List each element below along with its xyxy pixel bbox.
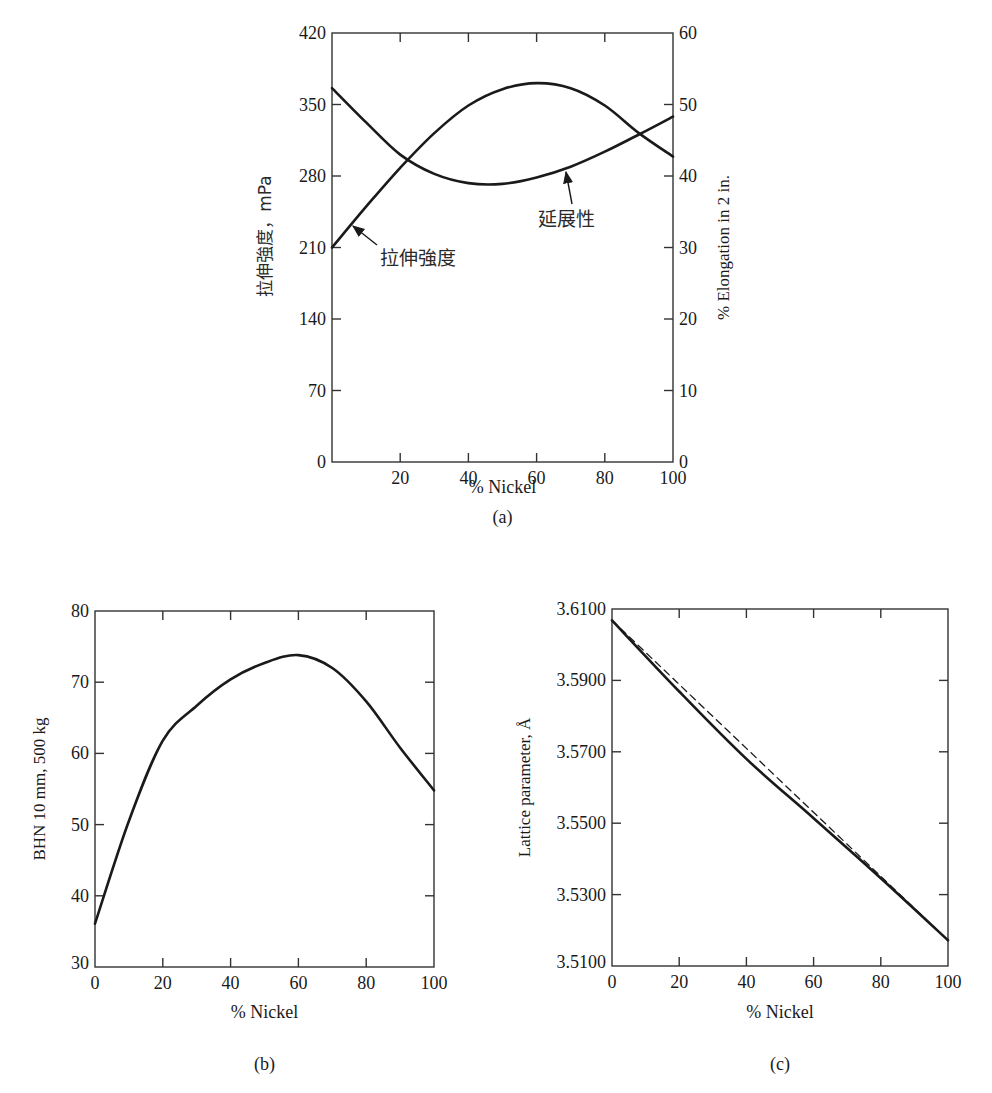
y-axis-right-title: % Elongation in 2 in. (714, 175, 733, 320)
y-tick-label: 3.6100 (557, 599, 607, 619)
x-tick-label: 60 (289, 973, 307, 993)
chart-panel-c: 0204060801003.51003.53003.55003.57003.59… (515, 599, 962, 1075)
y-tick-label: 3.5500 (557, 813, 607, 833)
series-line-- (332, 88, 673, 184)
y-tick-label: 3.5900 (557, 670, 607, 690)
y-tick-label: 140 (299, 309, 326, 329)
y-right-tick-label: 10 (679, 381, 697, 401)
x-axis-title: % Nickel (469, 477, 536, 497)
y-tick-label: 3.5100 (557, 952, 607, 972)
y-tick-label: 210 (299, 238, 326, 258)
y-right-tick-label: 60 (679, 23, 697, 43)
y-tick-label: 50 (71, 815, 89, 835)
y-right-tick-label: 20 (679, 309, 697, 329)
chart-panel-a: 2040608010007014021028035042001020304050… (255, 23, 733, 528)
x-tick-label: 20 (154, 973, 172, 993)
panel-caption: (a) (493, 507, 513, 528)
x-tick-label: 80 (357, 973, 375, 993)
y-tick-label: 0 (317, 452, 326, 472)
y-axis-title: 拉伸強度，mPa (255, 175, 275, 296)
y-tick-label: 30 (71, 953, 89, 973)
y-right-tick-label: 0 (679, 452, 688, 472)
y-tick-label: 350 (299, 95, 326, 115)
y-tick-label: 3.5300 (557, 885, 607, 905)
y-right-tick-label: 40 (679, 166, 697, 186)
y-tick-label: 40 (71, 886, 89, 906)
x-tick-label: 40 (737, 972, 755, 992)
x-axis-title: % Nickel (231, 1002, 298, 1022)
y-tick-label: 420 (299, 23, 326, 43)
series-line-bhn (95, 655, 434, 924)
y-right-tick-label: 50 (679, 95, 697, 115)
y-tick-label: 280 (299, 166, 326, 186)
x-tick-label: 80 (872, 972, 890, 992)
annotation-label-elongation: 延展性 (538, 208, 595, 230)
figure: 2040608010007014021028035042001020304050… (0, 0, 992, 1093)
x-tick-label: 40 (222, 973, 240, 993)
y-tick-label: 60 (71, 743, 89, 763)
series-line-- (332, 83, 673, 247)
figure-canvas: 2040608010007014021028035042001020304050… (0, 0, 992, 1093)
y-tick-label: 80 (71, 601, 89, 621)
chart-panel-b: 020406080100304050607080% NickelBHN 10 m… (30, 601, 448, 1075)
annotation-arrow-tensile (353, 226, 377, 245)
annotation-arrow-elongation (566, 172, 572, 204)
y-tick-label: 70 (71, 672, 89, 692)
x-tick-label: 100 (421, 973, 448, 993)
annotation-label-tensile: 拉伸強度 (380, 247, 456, 269)
y-tick-label: 70 (308, 381, 326, 401)
x-tick-label: 80 (596, 468, 614, 488)
x-tick-label: 0 (608, 972, 617, 992)
panel-caption: (c) (770, 1054, 790, 1075)
y-right-tick-label: 30 (679, 238, 697, 258)
x-tick-label: 100 (935, 972, 962, 992)
y-axis-title: BHN 10 mm, 500 kg (30, 717, 49, 861)
x-axis-title: % Nickel (746, 1002, 813, 1022)
x-tick-label: 0 (91, 973, 100, 993)
x-tick-label: 20 (670, 972, 688, 992)
panel-caption: (b) (254, 1054, 275, 1075)
x-tick-label: 20 (391, 468, 409, 488)
y-axis-title: Lattice parameter, Å (515, 717, 534, 857)
y-tick-label: 3.5700 (557, 742, 607, 762)
x-tick-label: 60 (805, 972, 823, 992)
chart-b-plot-frame (95, 611, 434, 967)
